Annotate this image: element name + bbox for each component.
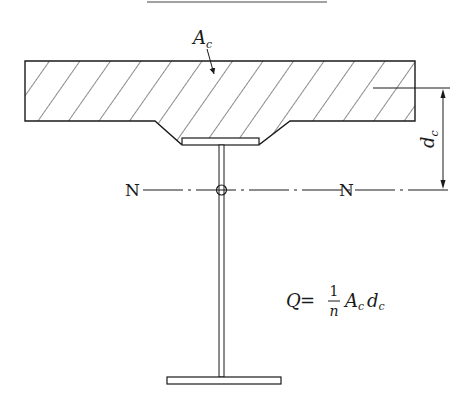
svg-text:n: n [329,303,338,319]
bottom-flange [167,377,281,384]
composite-section-diagram: N N Ac dc Q = 1 n Ac dc [0,0,471,404]
neutral-axis-label-right: N [339,180,354,200]
concrete-slab [25,61,415,144]
svg-text:Q: Q [286,290,301,311]
dimension-arrow-bottom [441,180,446,189]
svg-text:=: = [300,290,315,311]
distance-label: dc [417,130,441,148]
steel-web [219,145,224,377]
neutral-axis-label-left: N [125,180,140,200]
concrete-area-label: Ac [191,27,212,51]
top-flange [182,138,259,145]
svg-text:Ac: Ac [343,290,364,313]
dimension-arrow-top [441,89,446,98]
shear-flow-formula: Q = 1 n Ac dc [286,283,385,319]
svg-text:dc: dc [367,290,385,313]
svg-text:1: 1 [330,283,339,299]
